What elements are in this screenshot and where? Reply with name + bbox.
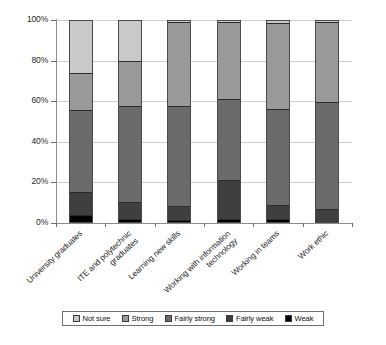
x-axis-tick bbox=[352, 223, 353, 227]
bar-segment[interactable] bbox=[118, 107, 142, 202]
bar-segment[interactable] bbox=[315, 103, 339, 210]
legend-label: Fairly strong bbox=[175, 314, 215, 323]
bar-segment[interactable] bbox=[69, 111, 93, 192]
legend-item[interactable]: Fairly strong bbox=[165, 314, 215, 323]
y-axis-tick bbox=[51, 61, 56, 62]
bar-column[interactable] bbox=[217, 20, 241, 223]
gridline bbox=[56, 142, 352, 143]
gridline bbox=[56, 101, 352, 102]
bar-column[interactable] bbox=[69, 20, 93, 223]
x-axis-tick bbox=[105, 223, 106, 227]
legend-label: Strong bbox=[132, 314, 154, 323]
legend-item[interactable]: Strong bbox=[122, 314, 154, 323]
legend-label: Not sure bbox=[83, 314, 111, 323]
y-axis-tick bbox=[51, 101, 56, 102]
bar-column[interactable] bbox=[118, 20, 142, 223]
bar-segment[interactable] bbox=[266, 206, 290, 220]
bar-segment[interactable] bbox=[217, 23, 241, 100]
legend-label: Fairly weak bbox=[236, 314, 273, 323]
legend-swatch-icon bbox=[226, 315, 233, 322]
bar-segment[interactable] bbox=[118, 220, 142, 223]
bar-segment[interactable] bbox=[118, 203, 142, 220]
y-axis-tick-label: 100% bbox=[0, 14, 48, 24]
y-axis-tick bbox=[51, 142, 56, 143]
bar-segment[interactable] bbox=[167, 221, 191, 223]
legend-swatch-icon bbox=[73, 315, 80, 322]
bar-column[interactable] bbox=[315, 20, 339, 223]
legend-swatch-icon bbox=[165, 315, 172, 322]
gridline bbox=[56, 20, 352, 21]
y-axis-tick-label: 0% bbox=[0, 217, 48, 227]
legend-label: Weak bbox=[295, 314, 314, 323]
y-axis-tick-label: 20% bbox=[0, 176, 48, 186]
bar-segment[interactable] bbox=[266, 220, 290, 222]
legend-item[interactable]: Not sure bbox=[73, 314, 111, 323]
plot-area bbox=[56, 20, 352, 223]
y-axis-tick-label: 80% bbox=[0, 55, 48, 65]
bar-segment[interactable] bbox=[69, 216, 93, 223]
bar-segment[interactable] bbox=[266, 110, 290, 205]
stacked-bar-chart: 0%20%40%60%80%100% University graduatesI… bbox=[0, 0, 386, 345]
bar-segment[interactable] bbox=[118, 20, 142, 62]
bar-segment[interactable] bbox=[315, 23, 339, 103]
bar-segment[interactable] bbox=[315, 210, 339, 223]
bar-segment[interactable] bbox=[217, 220, 241, 223]
y-axis-tick-label: 40% bbox=[0, 136, 48, 146]
legend-item[interactable]: Weak bbox=[285, 314, 314, 323]
x-axis-tick bbox=[56, 223, 57, 227]
x-axis-tick bbox=[253, 223, 254, 227]
bar-segment[interactable] bbox=[69, 193, 93, 216]
bar-segment[interactable] bbox=[69, 20, 93, 74]
bar-segment[interactable] bbox=[217, 181, 241, 220]
bar-segment[interactable] bbox=[69, 74, 93, 112]
x-axis-category-label: Working in teams bbox=[230, 229, 282, 278]
x-axis-category-label: Learning new skills bbox=[127, 229, 183, 282]
y-axis-tick-label: 60% bbox=[0, 95, 48, 105]
x-axis-tick bbox=[204, 223, 205, 227]
legend-swatch-icon bbox=[285, 315, 292, 322]
bar-segment[interactable] bbox=[167, 107, 191, 206]
legend-item[interactable]: Fairly weak bbox=[226, 314, 273, 323]
bar-segment[interactable] bbox=[167, 207, 191, 221]
bar-segment[interactable] bbox=[167, 23, 191, 107]
y-axis-line bbox=[56, 19, 57, 224]
x-axis-tick bbox=[303, 223, 304, 227]
x-axis-category-label: Work ethic bbox=[297, 229, 331, 262]
x-axis-category-label: ITE and polytechnic graduates bbox=[76, 229, 140, 291]
bar-column[interactable] bbox=[266, 20, 290, 223]
gridline bbox=[56, 182, 352, 183]
legend-swatch-icon bbox=[122, 315, 129, 322]
y-axis-tick bbox=[51, 20, 56, 21]
bar-column[interactable] bbox=[167, 20, 191, 223]
bar-segment[interactable] bbox=[217, 100, 241, 181]
chart-legend: Not sureStrongFairly strongFairly weakWe… bbox=[62, 311, 324, 326]
y-axis-tick bbox=[51, 182, 56, 183]
bar-segment[interactable] bbox=[118, 62, 142, 108]
x-axis-tick bbox=[155, 223, 156, 227]
gridline bbox=[56, 61, 352, 62]
bar-segment[interactable] bbox=[266, 24, 290, 110]
